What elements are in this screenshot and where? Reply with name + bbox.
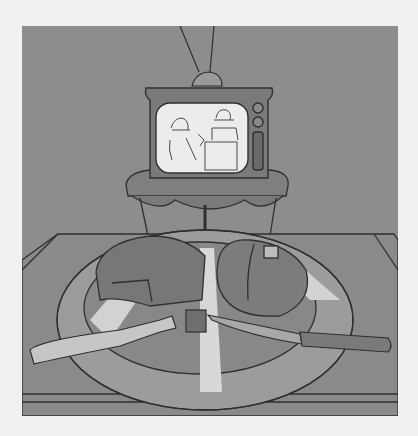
- illustration-panel: [22, 26, 398, 416]
- television: [146, 88, 273, 178]
- tv-dinner-illustration: [22, 26, 398, 416]
- meat-cube: [186, 310, 206, 332]
